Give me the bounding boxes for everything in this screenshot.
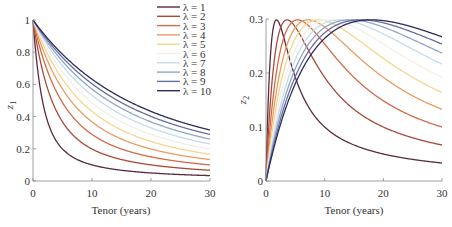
curve-lambda-5 (266, 20, 442, 181)
legend-item: λ = 10 (157, 85, 212, 97)
x-tick-label: 30 (205, 187, 217, 199)
y-tick-label: 0.4 (16, 111, 30, 123)
x-tick-label: 10 (319, 187, 331, 199)
x-tick-label: 30 (437, 187, 449, 199)
y-tick-label: 1 (25, 14, 31, 26)
svg-text:λ = 10: λ = 10 (183, 85, 212, 97)
legend: λ = 1λ = 2λ = 3λ = 4λ = 5λ = 6λ = 7λ = 8… (157, 1, 212, 97)
left-x-label: Tenor (years) (92, 204, 151, 217)
y-tick-label: 0.6 (16, 78, 30, 90)
y-tick-label: 0.2 (249, 67, 263, 79)
figure: 00.20.40.60.81 0102030 Tenor (years) z1 … (0, 0, 452, 227)
x-tick-label: 20 (146, 187, 158, 199)
y-tick-label: 0.3 (249, 13, 263, 25)
y-tick-label: 0 (258, 175, 264, 187)
y-tick-label: 0.2 (16, 143, 30, 155)
y-tick-label: 0 (25, 175, 31, 187)
right-plot-z2: 00.10.20.3 0102030 Tenor (years) z2 (236, 13, 448, 217)
x-tick-label: 0 (263, 187, 269, 199)
x-tick-label: 0 (30, 187, 36, 199)
y-tick-label: 0.1 (249, 121, 263, 133)
left-y-label: z1 (3, 101, 18, 110)
right-x-label: Tenor (years) (325, 204, 384, 217)
y-tick-label: 0.8 (16, 46, 30, 58)
x-tick-label: 10 (87, 187, 99, 199)
right-curves (266, 20, 442, 181)
x-tick-label: 20 (378, 187, 390, 199)
right-y-label: z2 (236, 96, 251, 105)
